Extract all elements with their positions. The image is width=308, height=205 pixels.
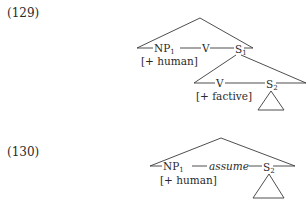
- node-np-subscript: 1: [179, 166, 183, 174]
- node-s1-subscript: 1: [242, 49, 246, 57]
- node-s2-subscript: 2: [270, 167, 274, 175]
- example-number-130: (130): [7, 146, 39, 158]
- feature-human: [+ human]: [141, 56, 198, 67]
- tree-lines: [0, 0, 308, 205]
- embedded-node-s2: S2: [266, 78, 278, 94]
- node-verb-assume: assume: [209, 160, 249, 172]
- node-s2: S2: [263, 161, 275, 177]
- node-np-label: NP: [154, 42, 170, 54]
- feature-factive: [+ factive]: [196, 91, 252, 102]
- embedded-node-v: V: [216, 77, 224, 89]
- node-np-label: NP: [163, 160, 179, 172]
- node-v: V: [202, 42, 210, 54]
- example-number-129: (129): [7, 7, 39, 19]
- node-s1: S1: [235, 43, 247, 59]
- embedded-node-s2-subscript: 2: [273, 84, 277, 92]
- feature-human: [+ human]: [160, 175, 217, 186]
